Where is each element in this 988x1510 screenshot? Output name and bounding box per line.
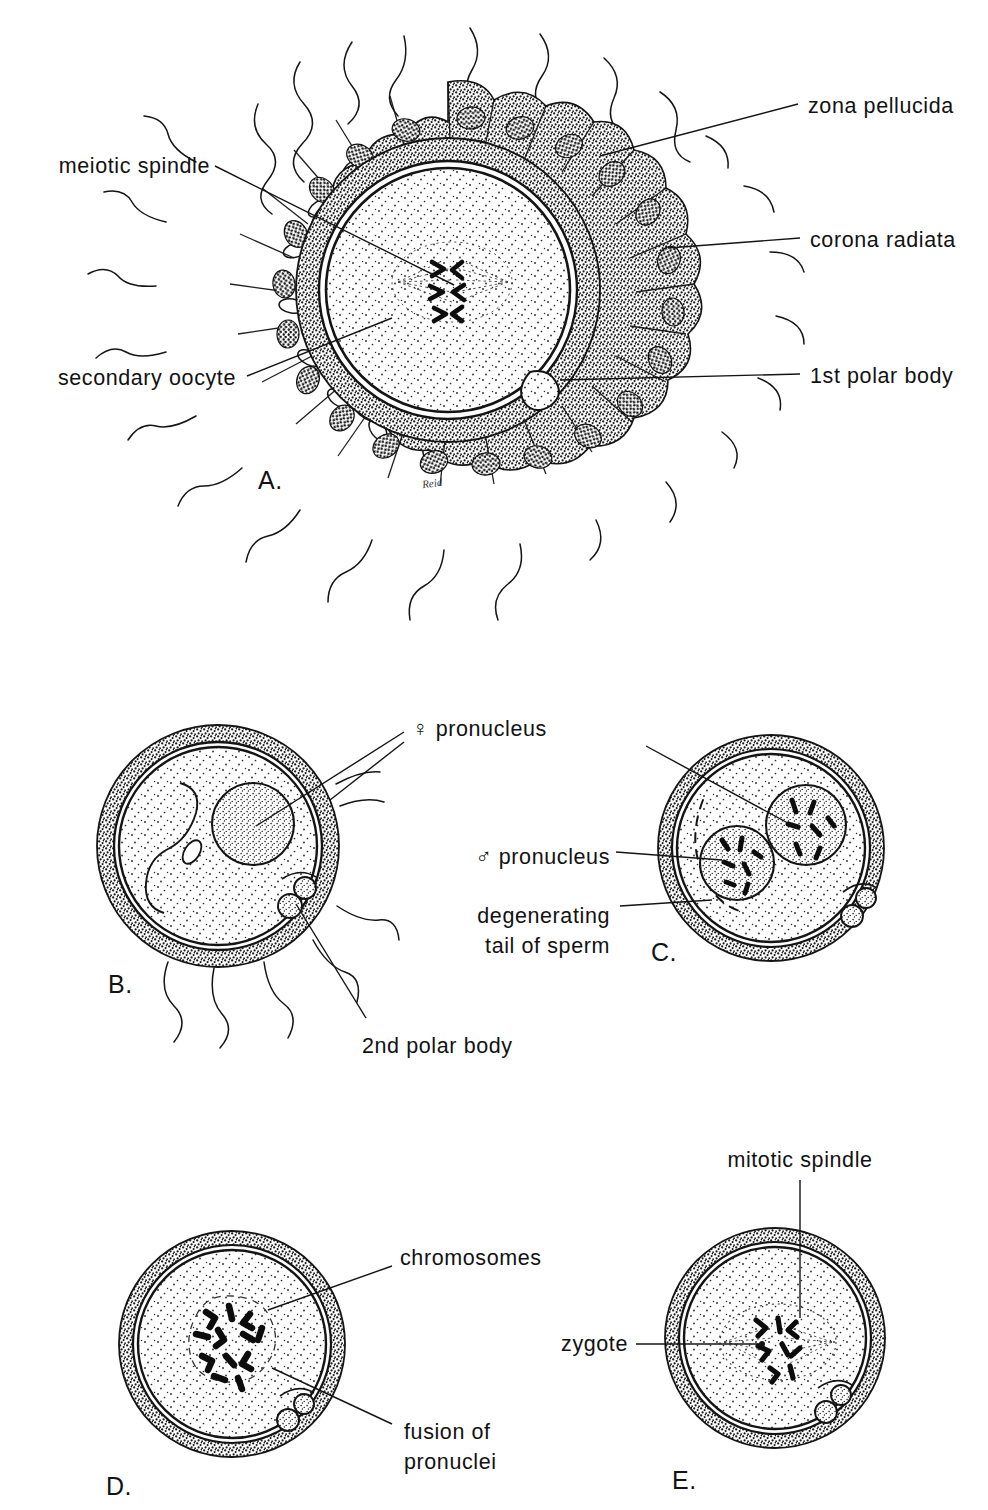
panel-letter-a: A. bbox=[258, 466, 283, 495]
label-male-pronucleus: ♂ pronucleus bbox=[400, 842, 610, 871]
label-fusion-line2: pronuclei bbox=[404, 1448, 624, 1476]
venus-symbol: ♀ bbox=[412, 716, 429, 741]
fertilization-figure: meiotic spindle secondary oocyte zona pe… bbox=[0, 0, 988, 1510]
panel-letter-c: C. bbox=[651, 938, 677, 967]
label-meiotic-spindle: meiotic spindle bbox=[10, 152, 210, 180]
label-degenerating-tail-line2: tail of sperm bbox=[390, 932, 610, 960]
label-chromosomes: chromosomes bbox=[400, 1244, 640, 1272]
panel-c-artwork bbox=[616, 735, 884, 961]
panel-b-artwork bbox=[97, 725, 404, 1048]
label-first-polar-body: 1st polar body bbox=[810, 362, 988, 390]
label-mitotic-spindle: mitotic spindle bbox=[700, 1146, 900, 1174]
label-zona-pellucida: zona pellucida bbox=[808, 92, 988, 120]
label-female-pronucleus-text: pronucleus bbox=[429, 717, 547, 741]
panel-letter-e: E. bbox=[672, 1466, 697, 1495]
panel-d-artwork bbox=[119, 1231, 392, 1457]
label-zygote: zygote bbox=[460, 1330, 628, 1358]
panel-letter-d: D. bbox=[106, 1472, 132, 1501]
panel-a-artwork bbox=[88, 28, 804, 620]
first-polar-body-a bbox=[521, 371, 559, 410]
male-pronucleus-c bbox=[700, 826, 774, 900]
panel-e-artwork bbox=[636, 1180, 885, 1448]
label-corona-radiata: corona radiata bbox=[810, 226, 988, 254]
mars-symbol: ♂ bbox=[475, 844, 492, 869]
label-secondary-oocyte: secondary oocyte bbox=[0, 364, 236, 392]
label-second-polar-body: 2nd polar body bbox=[362, 1032, 602, 1060]
female-pronucleus-c bbox=[766, 785, 846, 865]
female-pronucleus-b bbox=[212, 783, 294, 865]
label-male-pronucleus-text: pronucleus bbox=[492, 845, 610, 869]
label-degenerating-tail-line1: degenerating bbox=[390, 902, 610, 930]
panel-letter-b: B. bbox=[108, 970, 133, 999]
label-fusion-line1: fusion of bbox=[404, 1418, 624, 1446]
label-female-pronucleus: ♀ pronucleus bbox=[412, 714, 672, 743]
